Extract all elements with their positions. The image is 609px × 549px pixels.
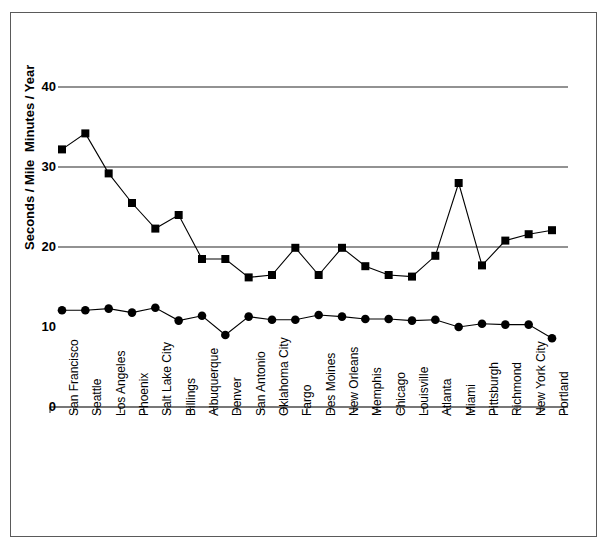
x-tick-label-san-antonio: San Antonio bbox=[254, 351, 268, 416]
x-tick-label-atlanta: Atlanta bbox=[440, 379, 454, 416]
x-tick-label-oklahoma-city: Oklahoma City bbox=[277, 337, 291, 416]
y-tick-label-0: 0 bbox=[22, 399, 56, 414]
x-tick-label-new-york-city: New York City bbox=[534, 341, 548, 416]
x-tick-label-des-moines: Des Moines bbox=[324, 353, 338, 416]
y-axis-label-minutes: Minutes / Year bbox=[22, 65, 37, 152]
y-tick-label-10: 10 bbox=[22, 319, 56, 334]
x-tick-label-los-angeles: Los Angeles bbox=[114, 351, 128, 416]
x-tick-label-new-orleans: New Orleans bbox=[347, 347, 361, 416]
x-tick-label-denver: Denver bbox=[230, 377, 244, 416]
x-tick-label-san-francisco: San Francisco bbox=[67, 339, 81, 416]
x-tick-label-louisville: Louisville bbox=[417, 367, 431, 416]
y-tick-label-20: 20 bbox=[22, 239, 56, 254]
gridlines bbox=[58, 87, 568, 247]
series-lines bbox=[58, 129, 557, 342]
x-tick-label-chicago: Chicago bbox=[394, 372, 408, 416]
y-tick-label-40: 40 bbox=[22, 79, 56, 94]
x-tick-label-albuquerque: Albuquerque bbox=[207, 348, 221, 416]
x-tick-label-pittsburgh: Pittsburgh bbox=[487, 362, 501, 416]
y-tick-label-30: 30 bbox=[22, 159, 56, 174]
x-tick-label-phoenix: Phoenix bbox=[137, 373, 151, 416]
x-tick-label-fargo: Fargo bbox=[300, 385, 314, 416]
x-tick-label-salt-lake-city: Salt Lake City bbox=[160, 342, 174, 416]
x-tick-label-billings: Billings bbox=[184, 378, 198, 416]
x-tick-label-miami: Miami bbox=[464, 384, 478, 416]
x-tick-label-richmond: Richmond bbox=[510, 362, 524, 416]
x-tick-label-seattle: Seattle bbox=[90, 379, 104, 416]
chart-plot-area bbox=[0, 0, 609, 549]
x-tick-label-portland: Portland bbox=[557, 371, 571, 416]
x-tick-label-memphis: Memphis bbox=[370, 367, 384, 416]
